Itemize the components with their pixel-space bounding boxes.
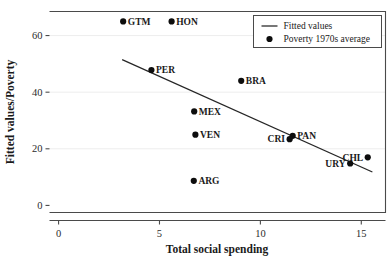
data-point-marker xyxy=(347,160,353,166)
data-point-marker xyxy=(148,67,154,73)
data-point-label: BRA xyxy=(246,76,266,86)
data-point-label: PER xyxy=(156,65,175,75)
data-point-marker xyxy=(120,18,126,24)
data-point-marker xyxy=(168,18,174,24)
y-tick-label: 60 xyxy=(32,30,43,41)
data-point-label: HON xyxy=(176,17,198,27)
chart-legend[interactable]: Fitted valuesPoverty 1970s average xyxy=(254,16,382,48)
x-tick-label: 0 xyxy=(56,228,61,239)
data-point-label: PAN xyxy=(297,131,316,141)
data-point-label: URY xyxy=(325,159,345,169)
y-tick-label: 20 xyxy=(32,143,43,154)
y-tick-label: 40 xyxy=(32,87,43,98)
x-tick-label: 10 xyxy=(255,228,266,239)
data-point-label: MEX xyxy=(199,107,221,117)
legend-dot-swatch xyxy=(266,36,272,42)
y-tick-label: 0 xyxy=(37,200,42,211)
y-axis-title: Fitted values/Poverty xyxy=(4,60,17,165)
data-point-label: VEN xyxy=(200,130,220,140)
x-axis-title: Total social spending xyxy=(166,243,269,256)
data-point-marker xyxy=(191,108,197,114)
data-point-marker xyxy=(365,154,371,160)
data-point-label: CRI xyxy=(268,134,286,144)
data-point-label: CHL xyxy=(343,153,364,163)
data-point-marker xyxy=(238,78,244,84)
data-point-label: ARG xyxy=(198,176,220,186)
chart-figure: 0204060 051015 GTMHONPERBRAMEXVENARGPANC… xyxy=(0,0,391,259)
data-point-label: GTM xyxy=(128,17,151,27)
x-tick-label: 5 xyxy=(157,228,162,239)
legend-entry-label[interactable]: Fitted values xyxy=(284,21,333,31)
data-point-marker xyxy=(192,132,198,138)
legend-entry-label[interactable]: Poverty 1970s average xyxy=(284,34,371,44)
data-point-marker xyxy=(287,136,293,142)
x-tick-label: 15 xyxy=(356,228,367,239)
data-point-marker xyxy=(191,178,197,184)
scatter-plot: 0204060 051015 GTMHONPERBRAMEXVENARGPANC… xyxy=(0,0,391,259)
